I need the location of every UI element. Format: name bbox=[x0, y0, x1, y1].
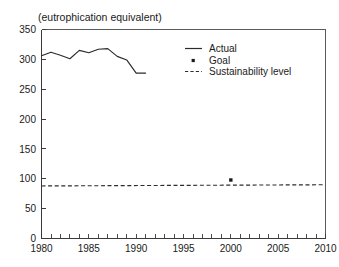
y-tick-label-100: 100 bbox=[19, 173, 36, 184]
y-tick-label-150: 150 bbox=[19, 144, 36, 155]
legend-symbol-goal-icon bbox=[192, 59, 195, 62]
y-tick-label-250: 250 bbox=[19, 84, 36, 95]
x-axis-minor-ticks bbox=[42, 234, 326, 239]
x-tick-label-2005: 2005 bbox=[267, 243, 290, 254]
y-tick-label-200: 200 bbox=[19, 114, 36, 125]
series-actual-line bbox=[42, 49, 146, 73]
series-goal-markers bbox=[229, 178, 232, 181]
series-sustainability-level bbox=[42, 185, 326, 186]
chart-plot-area: 0 50 100 150 200 250 300 350 bbox=[0, 0, 339, 267]
x-tick-label-1985: 1985 bbox=[78, 243, 101, 254]
x-tick-label-2000: 2000 bbox=[220, 243, 243, 254]
legend-label-actual: Actual bbox=[209, 43, 237, 54]
y-tick-label-350: 350 bbox=[19, 24, 36, 35]
plot-frame bbox=[42, 30, 326, 239]
x-tick-label-1990: 1990 bbox=[125, 243, 148, 254]
y-tick-label-50: 50 bbox=[25, 203, 37, 214]
x-tick-label-1980: 1980 bbox=[30, 243, 53, 254]
x-tick-label-2010: 2010 bbox=[314, 243, 337, 254]
chart-legend: Actual Goal Sustainability level bbox=[185, 43, 291, 77]
y-tick-label-300: 300 bbox=[19, 54, 36, 65]
legend-label-sustainability: Sustainability level bbox=[209, 66, 291, 77]
x-axis-labels: 1980 1985 1990 1995 2000 2005 2010 bbox=[30, 243, 337, 254]
x-tick-label-1995: 1995 bbox=[172, 243, 195, 254]
goal-point-marker bbox=[229, 178, 232, 181]
legend-label-goal: Goal bbox=[209, 55, 230, 66]
y-tick-group bbox=[42, 30, 46, 239]
chart-container: (eutrophication equivalent) 0 50 100 bbox=[0, 0, 339, 267]
